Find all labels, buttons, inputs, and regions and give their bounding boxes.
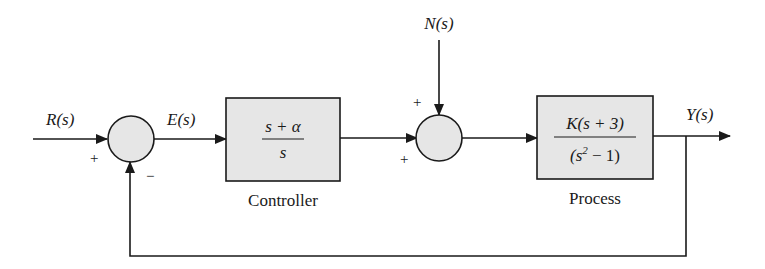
controller-numerator: s + α <box>265 117 302 136</box>
sum2-left-plus-sign: + <box>400 151 408 167</box>
error-label: E(s) <box>166 110 196 129</box>
block-diagram: R(s) + − E(s) s + α s Controller N(s) + … <box>0 0 765 269</box>
process-numerator: K(s + 3) <box>565 114 624 133</box>
sum1-minus-sign: − <box>146 168 154 184</box>
input-label: R(s) <box>45 110 75 129</box>
disturbance-label: N(s) <box>423 14 454 33</box>
summing-junction-2 <box>416 115 462 161</box>
summing-junction-1 <box>108 116 154 162</box>
controller-denominator: s <box>280 143 287 162</box>
sum2-top-plus-sign: + <box>413 94 421 110</box>
output-label: Y(s) <box>686 105 714 124</box>
process-caption: Process <box>569 189 621 208</box>
controller-caption: Controller <box>248 191 318 210</box>
process-denominator: (s2 − 1) <box>570 144 620 165</box>
sum1-plus-sign: + <box>90 150 98 166</box>
